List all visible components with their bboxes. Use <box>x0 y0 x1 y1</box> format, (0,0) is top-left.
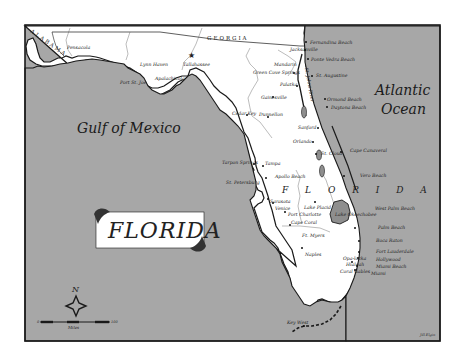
svg-text:Pensacola: Pensacola <box>66 45 90 50</box>
svg-text:Naples: Naples <box>304 252 322 257</box>
svg-text:Ormond Beach: Ormond Beach <box>327 97 362 102</box>
svg-text:100: 100 <box>111 320 118 324</box>
svg-text:Venice: Venice <box>275 206 291 211</box>
svg-text:Tampa: Tampa <box>265 161 281 166</box>
svg-text:Sanford: Sanford <box>298 125 317 130</box>
svg-text:Palatka: Palatka <box>279 82 297 87</box>
svg-text:Miami Beach: Miami Beach <box>375 264 407 269</box>
svg-text:Apollo Beach: Apollo Beach <box>274 174 306 179</box>
lake-george <box>302 106 307 118</box>
svg-text:Port St. Joe: Port St. Joe <box>119 80 147 85</box>
svg-text:Palm Beach: Palm Beach <box>377 225 405 230</box>
svg-text:Apalachicola: Apalachicola <box>154 76 185 81</box>
lake-kissimmee <box>320 165 325 177</box>
svg-text:Cape Coral: Cape Coral <box>291 220 318 225</box>
svg-text:Lake Placid: Lake Placid <box>303 205 331 210</box>
svg-text:Miami: Miami <box>370 271 386 276</box>
svg-text:Dunnellon: Dunnellon <box>258 112 283 117</box>
svg-text:Tallahassee: Tallahassee <box>183 62 210 67</box>
svg-text:Jacksonville: Jacksonville <box>289 47 318 52</box>
svg-text:Port Charlotte: Port Charlotte <box>287 212 322 217</box>
svg-text:Gainesville: Gainesville <box>261 95 287 100</box>
georgia-label: GEORGIA <box>207 35 249 41</box>
svg-text:Sarasota: Sarasota <box>270 199 291 204</box>
svg-text:Mandarin: Mandarin <box>273 62 297 67</box>
svg-text:Orlando: Orlando <box>293 139 312 144</box>
atlantic-label: Atlantic <box>373 82 430 98</box>
svg-text:Fernandina Beach: Fernandina Beach <box>309 40 352 45</box>
svg-text:Vero Beach: Vero Beach <box>360 173 386 178</box>
ocean-label: Ocean <box>381 101 426 117</box>
svg-text:Fort Lauderdale: Fort Lauderdale <box>375 249 414 254</box>
svg-text:West Palm Beach: West Palm Beach <box>375 206 415 211</box>
svg-text:Hialeah: Hialeah <box>345 262 364 267</box>
florida-map: Gulf of Mexico Atlantic Ocean ALABAMA GE… <box>0 0 467 364</box>
svg-text:Cape Canaveral: Cape Canaveral <box>350 148 388 153</box>
svg-text:Lake Okeechobee: Lake Okeechobee <box>334 212 377 217</box>
florida-state-label: F L O R I D A <box>281 185 434 195</box>
gulf-of-mexico-label: Gulf of Mexico <box>77 120 181 136</box>
svg-text:Boca Raton: Boca Raton <box>375 238 403 243</box>
map-credit: Jill Elgin <box>419 333 436 337</box>
svg-text:St. Cloud: St. Cloud <box>321 151 343 156</box>
capital-star-icon: ★ <box>188 51 195 60</box>
north-label: N <box>71 285 80 294</box>
svg-text:Opa-locka: Opa-locka <box>343 256 367 261</box>
svg-text:Miles: Miles <box>67 325 79 330</box>
title-cartouche: FLORIDA <box>94 208 222 251</box>
svg-text:Ponte Vedra Beach: Ponte Vedra Beach <box>310 57 355 62</box>
svg-text:Coral Gables: Coral Gables <box>340 269 371 274</box>
map-title: FLORIDA <box>107 218 222 243</box>
